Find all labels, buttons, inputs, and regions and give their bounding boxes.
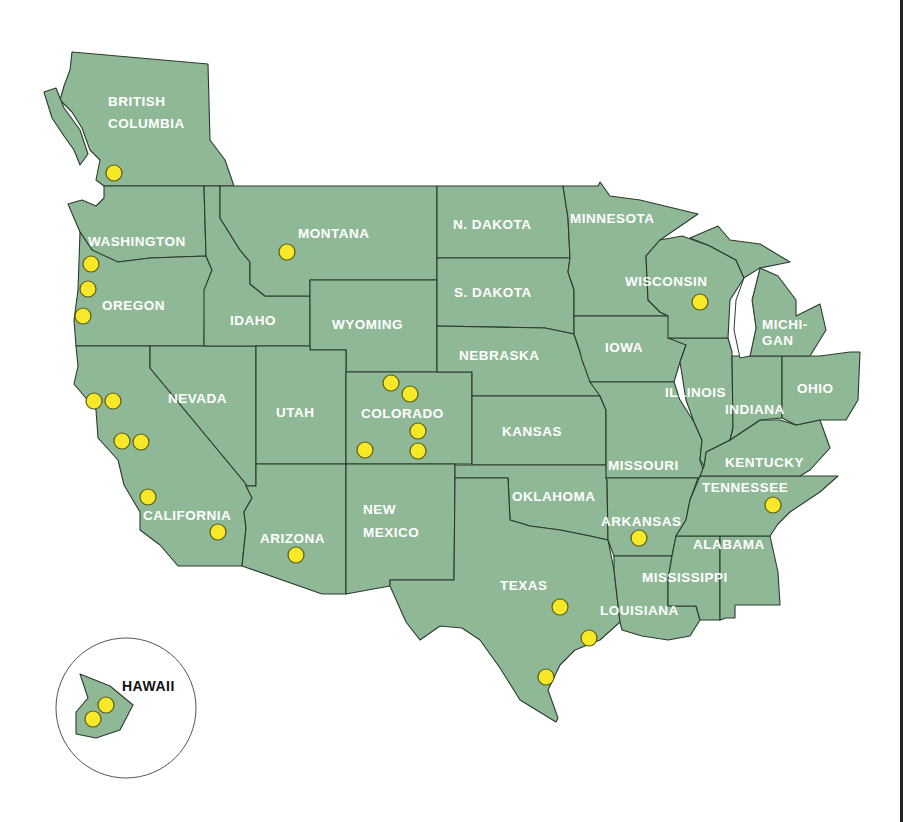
label-michigan-1: MICHI- <box>762 317 808 332</box>
label-new-mexico-1: NEW <box>363 502 396 517</box>
label-kentucky: KENTUCKY <box>725 455 804 470</box>
label-idaho: IDAHO <box>230 313 276 328</box>
label-mississippi: MISSISSIPPI <box>642 570 728 585</box>
label-alabama: ALABAMA <box>693 537 765 552</box>
location-marker[interactable] <box>631 530 647 546</box>
label-british-columbia-1: BRITISH <box>108 94 166 109</box>
location-marker[interactable] <box>581 630 597 646</box>
label-utah: UTAH <box>276 405 315 420</box>
hawaii-inset <box>56 638 196 778</box>
region-arizona <box>242 464 346 594</box>
label-colorado: COLORADO <box>361 406 444 421</box>
label-nebraska: NEBRASKA <box>459 348 540 363</box>
label-british-columbia-2: COLUMBIA <box>108 116 185 131</box>
label-illinois: ILLINOIS <box>665 385 726 400</box>
label-new-mexico-2: MEXICO <box>363 525 419 540</box>
location-marker[interactable] <box>106 165 122 181</box>
location-marker[interactable] <box>140 489 156 505</box>
label-ohio: OHIO <box>797 381 834 396</box>
label-hawaii: HAWAII <box>122 678 175 694</box>
label-arizona: ARIZONA <box>260 531 325 546</box>
location-marker[interactable] <box>402 386 418 402</box>
map-canvas: BRITISH COLUMBIA WASHINGTON OREGON CALIF… <box>0 0 903 822</box>
label-indiana: INDIANA <box>725 402 785 417</box>
label-missouri: MISSOURI <box>608 458 679 473</box>
label-arkansas: ARKANSAS <box>601 514 682 529</box>
location-marker[interactable] <box>86 393 102 409</box>
label-louisiana: LOUISIANA <box>600 603 679 618</box>
label-texas: TEXAS <box>500 578 548 593</box>
location-marker[interactable] <box>357 442 373 458</box>
label-iowa: IOWA <box>605 340 643 355</box>
location-marker[interactable] <box>552 599 568 615</box>
location-marker[interactable] <box>75 308 91 324</box>
location-marker[interactable] <box>765 497 781 513</box>
label-minnesota: MINNESOTA <box>570 211 655 226</box>
location-marker[interactable] <box>692 294 708 310</box>
label-oregon: OREGON <box>102 298 165 313</box>
location-marker[interactable] <box>98 697 114 713</box>
location-marker[interactable] <box>83 256 99 272</box>
label-kansas: KANSAS <box>502 424 562 439</box>
location-marker[interactable] <box>279 244 295 260</box>
label-s-dakota: S. DAKOTA <box>454 285 532 300</box>
label-wisconsin: WISCONSIN <box>625 274 708 289</box>
us-map: BRITISH COLUMBIA WASHINGTON OREGON CALIF… <box>0 0 903 822</box>
label-tennessee: TENNESSEE <box>702 480 788 495</box>
location-marker[interactable] <box>105 393 121 409</box>
label-wyoming: WYOMING <box>332 317 403 332</box>
label-michigan-2: GAN <box>762 333 794 348</box>
location-marker[interactable] <box>288 547 304 563</box>
location-marker[interactable] <box>410 423 426 439</box>
label-n-dakota: N. DAKOTA <box>453 217 532 232</box>
label-oklahoma: OKLAHOMA <box>512 489 596 504</box>
location-marker[interactable] <box>133 434 149 450</box>
label-washington: WASHINGTON <box>88 234 186 249</box>
label-nevada: NEVADA <box>168 391 227 406</box>
location-marker[interactable] <box>114 433 130 449</box>
location-marker[interactable] <box>538 669 554 685</box>
label-montana: MONTANA <box>298 226 370 241</box>
location-marker[interactable] <box>410 443 426 459</box>
location-marker[interactable] <box>80 281 96 297</box>
label-california: CALIFORNIA <box>143 508 231 523</box>
location-marker[interactable] <box>210 524 226 540</box>
location-marker[interactable] <box>383 375 399 391</box>
location-marker[interactable] <box>85 711 101 727</box>
